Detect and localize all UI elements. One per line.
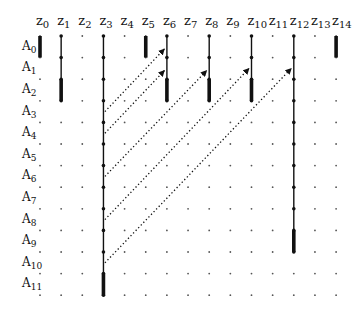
grid-dot bbox=[145, 122, 147, 124]
grid-dot bbox=[187, 78, 189, 80]
node-dot bbox=[250, 34, 254, 38]
grid-dot bbox=[81, 122, 83, 124]
grid-dot bbox=[314, 230, 316, 232]
column-label: z1 bbox=[57, 13, 70, 30]
grid-dot bbox=[124, 35, 126, 37]
grid-dot bbox=[251, 273, 253, 275]
grid-dot bbox=[251, 208, 253, 210]
node-dot bbox=[102, 77, 106, 81]
column-label: z13 bbox=[311, 13, 331, 30]
grid-dot bbox=[208, 122, 210, 124]
grid-dot bbox=[166, 251, 168, 253]
column-label: z3 bbox=[99, 13, 112, 30]
grid-dot bbox=[314, 122, 316, 124]
node-dot bbox=[165, 34, 169, 38]
grid-dot bbox=[251, 165, 253, 167]
dotted-arrow bbox=[105, 68, 291, 262]
grid-dot bbox=[187, 230, 189, 232]
grid-dot bbox=[145, 230, 147, 232]
column-label: z11 bbox=[269, 13, 289, 30]
grid-dot bbox=[81, 165, 83, 167]
grid-dot bbox=[124, 208, 126, 210]
column-label: z4 bbox=[121, 13, 134, 30]
grid-dot bbox=[187, 57, 189, 59]
grid-dot bbox=[208, 165, 210, 167]
grid-dot bbox=[272, 57, 274, 59]
node-dot bbox=[59, 56, 63, 60]
grid-dot bbox=[335, 273, 337, 275]
column-label: z8 bbox=[205, 13, 218, 30]
node-dot bbox=[207, 56, 211, 60]
grid-dot bbox=[229, 122, 231, 124]
node-dot bbox=[102, 229, 106, 233]
grid-dot bbox=[251, 294, 253, 296]
grid-dot bbox=[124, 143, 126, 145]
grid-dot bbox=[335, 186, 337, 188]
row-label: A3 bbox=[21, 104, 37, 120]
grid-dot bbox=[272, 294, 274, 296]
grid-dot bbox=[229, 230, 231, 232]
grid-dot bbox=[335, 208, 337, 210]
node-dot bbox=[207, 34, 211, 38]
grid-dot bbox=[251, 143, 253, 145]
grid-dot bbox=[272, 100, 274, 102]
row-label: A11 bbox=[21, 276, 42, 292]
grid-dot bbox=[60, 230, 62, 232]
grid-dot bbox=[251, 251, 253, 253]
grid-dot bbox=[208, 186, 210, 188]
grid-dot bbox=[272, 165, 274, 167]
grid-dot bbox=[187, 208, 189, 210]
node-dot bbox=[102, 56, 106, 60]
grid-dot bbox=[81, 230, 83, 232]
grid-dot bbox=[39, 122, 41, 124]
grid-dot bbox=[314, 251, 316, 253]
grid-dot bbox=[187, 251, 189, 253]
grid-dot bbox=[251, 186, 253, 188]
row-label: A10 bbox=[21, 255, 42, 271]
grid-dot bbox=[335, 165, 337, 167]
row-label: A5 bbox=[21, 147, 37, 163]
grid-dot bbox=[39, 294, 41, 296]
dotted-arrow bbox=[105, 68, 249, 219]
grid-dot bbox=[229, 186, 231, 188]
grid-dot bbox=[314, 186, 316, 188]
grid-dot bbox=[272, 208, 274, 210]
grid-dot bbox=[81, 78, 83, 80]
grid-dot bbox=[166, 143, 168, 145]
grid-dot bbox=[60, 273, 62, 275]
grid-dot bbox=[293, 294, 295, 296]
grid-dot bbox=[187, 35, 189, 37]
grid-dot bbox=[335, 143, 337, 145]
grid-dot bbox=[60, 251, 62, 253]
node-dot bbox=[102, 207, 106, 211]
column-label: z6 bbox=[163, 13, 176, 30]
grid-dot bbox=[39, 100, 41, 102]
grid-dot bbox=[314, 57, 316, 59]
grid-dot bbox=[60, 294, 62, 296]
grid-dot bbox=[166, 122, 168, 124]
grid-dot bbox=[208, 143, 210, 145]
grid-dot bbox=[39, 251, 41, 253]
grid-dot bbox=[251, 230, 253, 232]
node-dot bbox=[292, 164, 296, 168]
grid-dot bbox=[251, 122, 253, 124]
grid-dot bbox=[166, 230, 168, 232]
grid-dot bbox=[314, 143, 316, 145]
grid-dot bbox=[208, 230, 210, 232]
grid-dot bbox=[272, 78, 274, 80]
node-dot bbox=[102, 250, 106, 254]
grid-dot bbox=[145, 143, 147, 145]
node-dot bbox=[102, 185, 106, 189]
grid-dot bbox=[81, 294, 83, 296]
grid-dot bbox=[124, 122, 126, 124]
dotted-arrows bbox=[105, 49, 291, 263]
grid-dot bbox=[229, 100, 231, 102]
grid-dot bbox=[39, 273, 41, 275]
grid-dot bbox=[81, 251, 83, 253]
grid-dot bbox=[81, 273, 83, 275]
node-dot bbox=[292, 207, 296, 211]
row-label: A9 bbox=[21, 233, 37, 249]
node-dot bbox=[102, 142, 106, 146]
row-label: A6 bbox=[21, 168, 37, 184]
grid-dot bbox=[335, 294, 337, 296]
